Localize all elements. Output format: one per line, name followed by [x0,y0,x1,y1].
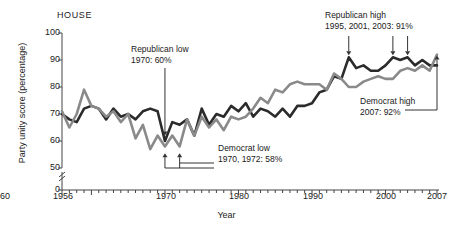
data-series-layer [62,55,437,150]
chart-figure: HOUSE Party unity score (percentage) Yea… [0,0,453,231]
plot-area [0,0,453,231]
annotation-leaders [162,36,439,168]
